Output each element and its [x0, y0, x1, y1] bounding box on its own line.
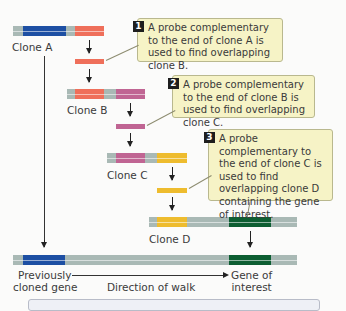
arrow-down-icon	[89, 69, 90, 82]
arrow-down-icon	[172, 167, 173, 180]
clone-c-label: Clone C	[107, 169, 147, 181]
arrow-down-icon	[130, 103, 131, 116]
arrow-down-icon	[172, 197, 173, 210]
clone-c-bar	[107, 153, 187, 163]
callout-step-3: 3 A probe complementary to the end of cl…	[208, 129, 333, 201]
probe-c	[157, 188, 187, 193]
arrow-down-icon	[130, 133, 131, 146]
direction-arrow	[72, 275, 227, 276]
clone-b-label: Clone B	[67, 104, 107, 116]
caption-box	[28, 299, 320, 311]
gene-of-interest-label: Gene of interest	[231, 269, 272, 293]
callout-2-leader	[147, 110, 176, 126]
clone-a-bar	[13, 26, 104, 36]
chromosome-bar	[13, 255, 297, 265]
arrow-down-icon	[89, 40, 90, 53]
callout-1-leader	[106, 45, 139, 61]
probe-a	[75, 59, 104, 64]
arrow-down-icon	[250, 231, 251, 247]
clone-d-label: Clone D	[149, 233, 190, 245]
callout-step-1: 1 A probe complementary to the end of cl…	[137, 18, 283, 62]
clone-a-label: Clone A	[12, 41, 52, 53]
callout-step-2: 2 A probe complementary to the end of cl…	[172, 75, 315, 118]
step-3-badge: 3	[204, 132, 215, 143]
probe-b	[116, 124, 145, 129]
arrow-down-icon	[44, 240, 45, 247]
step-2-badge: 2	[168, 78, 179, 89]
clone-a-to-result-line	[44, 56, 45, 247]
direction-of-walk-label: Direction of walk	[107, 281, 195, 293]
previously-cloned-gene-label: Previously cloned gene	[18, 269, 77, 293]
step-1-badge: 1	[133, 21, 144, 32]
clone-b-bar	[67, 89, 145, 99]
